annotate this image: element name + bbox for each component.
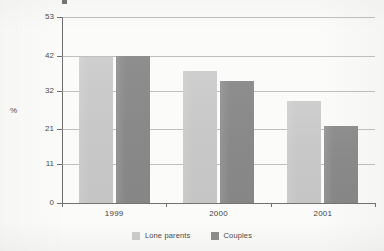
x-axis-tick: [375, 203, 376, 207]
x-axis-tick: [62, 203, 63, 207]
x-axis-category-label-1999: 1999: [84, 209, 144, 218]
legend-label: Couples: [224, 231, 253, 240]
y-axis-tick-label: 21: [0, 125, 54, 133]
y-axis-tick-label: 11: [0, 160, 54, 168]
x-axis-tick: [166, 203, 167, 207]
legend-item-couples[interactable]: Couples: [211, 231, 253, 240]
x-axis-category-label-2001: 2001: [293, 209, 353, 218]
legend-label: Lone parents: [145, 231, 191, 240]
bar-couples-1999: [116, 56, 150, 203]
bar-couples-2001: [324, 126, 358, 203]
cropped-title-remnant: [62, 0, 67, 4]
x-axis-category-label-2000: 2000: [189, 209, 249, 218]
y-axis-tick-label: 42: [0, 52, 54, 60]
bar-lone-parents-1999: [79, 57, 113, 203]
y-axis-tick-label: 53: [0, 13, 54, 21]
chart-legend: Lone parentsCouples: [0, 231, 384, 240]
x-axis-tick: [271, 203, 272, 207]
bar-lone-parents-2001: [287, 101, 321, 203]
bar-lone-parents-2000: [183, 71, 217, 203]
bar-chart-screenshot: % 01121324253 199920002001 Lone parentsC…: [0, 0, 384, 251]
bar-couples-2000: [220, 81, 254, 203]
y-axis-tick-label: 32: [0, 87, 54, 95]
plot-area: [62, 17, 375, 203]
axis-baseline: [62, 203, 375, 204]
y-axis-tick-label: 0: [0, 199, 54, 207]
legend-item-lone-parents[interactable]: Lone parents: [132, 231, 191, 240]
y-axis-unit-label: %: [10, 106, 17, 115]
light-grey-swatch-icon: [132, 232, 140, 240]
dark-grey-swatch-icon: [211, 232, 219, 240]
gridline: [62, 17, 375, 18]
